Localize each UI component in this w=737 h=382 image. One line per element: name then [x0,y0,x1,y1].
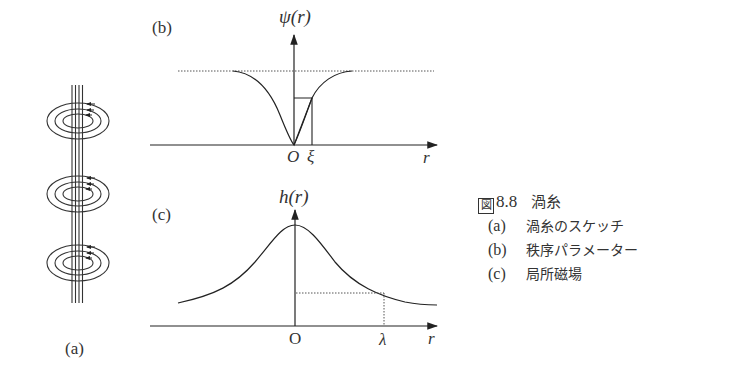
caption-item-tag: (c) [488,262,526,285]
current-loop-3 [47,245,109,281]
figure-caption: 図8.8渦糸 (a)渦糸のスケッチ (b)秩序パラメーター (c)局所磁場 [478,190,638,286]
caption-item: (b)秩序パラメーター [478,238,638,262]
caption-item-text: 渦糸のスケッチ [526,218,624,234]
lambda-label: λ [379,330,386,350]
caption-title-line: 図8.8渦糸 [478,190,638,214]
caption-item-text: 局所磁場 [526,266,582,282]
magnetic-field-plot [150,210,437,326]
h-curve [178,225,437,305]
xi-label: ξ [307,147,314,167]
figure-mark: 図 [478,198,494,214]
order-parameter-plot [150,35,437,145]
b-r-label: r [423,148,430,168]
panel-b-label: (b) [152,18,172,38]
panel-a-label: (a) [65,339,84,359]
current-loop-2 [47,176,109,212]
caption-item: (c)局所磁場 [478,262,638,286]
current-loop-1 [47,103,109,139]
psi-curve [233,71,352,145]
panel-c-label: (c) [152,205,171,225]
linear-approx [294,98,312,145]
c-origin-label: O [289,329,301,349]
figure-title: 渦糸 [531,193,561,211]
caption-item-tag: (b) [488,238,526,261]
c-r-label: r [428,329,435,349]
h-y-label: h(r) [279,186,309,208]
b-origin-label: O [287,147,299,167]
psi-y-label: ψ(r) [279,6,311,28]
caption-item: (a)渦糸のスケッチ [478,214,638,238]
vortex-sketch [47,85,109,303]
caption-item-text: 秩序パラメーター [526,242,638,258]
caption-item-tag: (a) [488,214,526,237]
figure-number: 8.8 [496,192,517,211]
